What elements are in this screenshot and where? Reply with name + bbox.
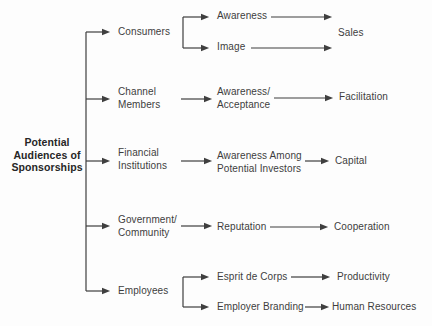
- audience-node-government-community: Government/ Community: [118, 214, 177, 239]
- mediator-node-employer-branding: Employer Branding: [217, 301, 304, 314]
- sponsorship-audiences-diagram: Potential Audiences of Sponsorships Cons…: [0, 0, 432, 326]
- root-node-potential-audiences: Potential Audiences of Sponsorships: [5, 136, 89, 174]
- mediator-node-reputation: Reputation: [217, 221, 266, 234]
- outcome-node-productivity: Productivity: [337, 271, 390, 284]
- mediator-node-awareness-acceptance: Awareness/ Acceptance: [217, 86, 270, 111]
- mediator-node-esprit-de-corps: Esprit de Corps: [217, 271, 287, 284]
- outcome-node-facilitation: Facilitation: [339, 91, 388, 104]
- mediator-node-awareness: Awareness: [217, 10, 267, 23]
- outcome-node-capital: Capital: [335, 155, 367, 168]
- audience-node-consumers: Consumers: [118, 26, 170, 39]
- audience-node-financial-institutions: Financial Institutions: [118, 147, 167, 172]
- audience-node-channel-members: Channel Members: [118, 86, 160, 111]
- outcome-node-sales: Sales: [338, 27, 364, 40]
- audience-node-employees: Employees: [118, 285, 168, 298]
- mediator-node-image: Image: [217, 41, 245, 54]
- mediator-node-awareness-among-investors: Awareness Among Potential Investors: [217, 150, 302, 175]
- outcome-node-cooperation: Cooperation: [334, 221, 390, 234]
- outcome-node-human-resources: Human Resources: [332, 301, 416, 314]
